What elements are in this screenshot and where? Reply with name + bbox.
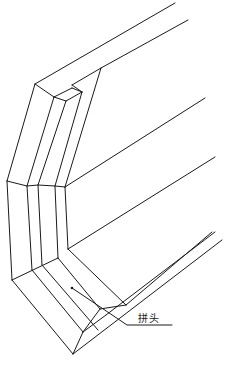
- upper-member: [7, 3, 188, 187]
- bent-frame-diagram: [0, 0, 230, 366]
- lower-member: [7, 157, 222, 354]
- bend-line: [7, 98, 205, 187]
- splice-joint-label: 拼头: [138, 310, 159, 325]
